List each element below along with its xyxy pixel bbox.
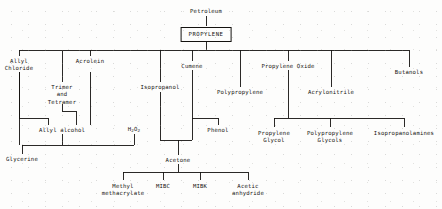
node-butanols: Butanols (395, 69, 423, 76)
node-mibk: MIBK (193, 183, 207, 190)
node-allyl-chloride: Allyl Chloride (5, 58, 33, 73)
node-methyl-methacrylate: Methyl methacrylate (102, 183, 145, 198)
node-propylene-oxide: Propylene Oxide (261, 63, 314, 70)
node-cumene: Cumene (181, 63, 202, 70)
node-acetic-anhydride: Acetic anhydride (232, 183, 264, 198)
node-trimer-tetramer: Trimer and Tetramer (48, 84, 76, 106)
node-acetone: Acetone (166, 157, 191, 164)
edge-cumene-phenol (192, 118, 218, 125)
node-mibc: MIBC (156, 183, 170, 190)
node-polypropylene: Polypropylene (217, 89, 263, 96)
node-polypropylene-glycols: Polypropylene Glycols (307, 130, 353, 145)
node-acrylonitrile: Acrylonitrile (308, 89, 354, 96)
edge-allylchloride-down (19, 72, 48, 125)
node-glycerine: Glycerine (6, 156, 38, 163)
node-phenol: Phenol (207, 127, 228, 134)
node-propylene: PROPYLENE (181, 27, 232, 42)
edge-trimer-down (62, 104, 76, 125)
node-allyl-alcohol: Allyl alcohol (39, 127, 85, 134)
node-acrolein: Acrolein (76, 58, 104, 65)
edge-isopropanol-acetone (160, 92, 178, 155)
propylene-flow-diagram: PROPYLENE Petroleum Allyl Chloride Trime… (0, 0, 442, 209)
node-petroleum: Petroleum (190, 8, 222, 15)
node-isopropanol: Isopropanol (140, 84, 179, 91)
node-hydrogen-peroxide: H2O2 (128, 126, 141, 134)
node-isopropanolamines: Isopropanolamines (374, 130, 434, 137)
node-propylene-glycol: Propylene Glycol (258, 130, 290, 145)
